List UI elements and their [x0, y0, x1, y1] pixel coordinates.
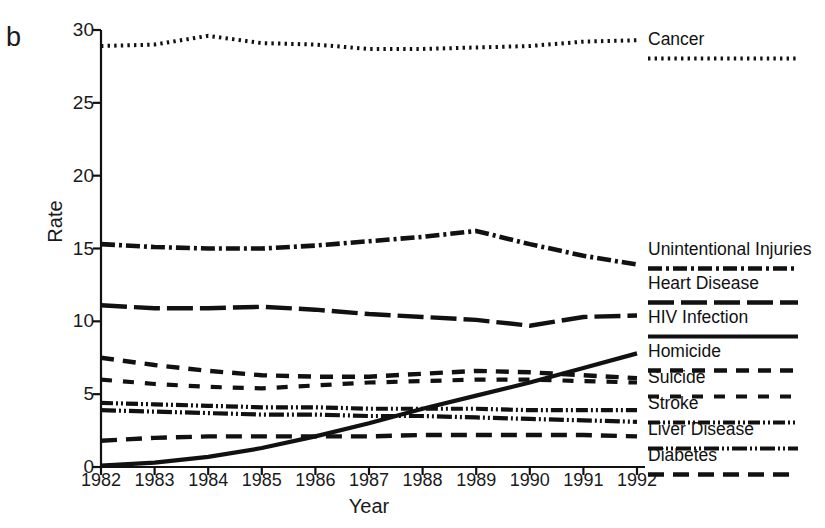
figure-panel-b: b Rate Year 051015202530 198219831984198… [0, 0, 825, 528]
series-line-cancer [101, 36, 637, 49]
legend-label: Stroke [648, 394, 825, 412]
legend-swatch-dotted [648, 55, 798, 62]
legend-label: Homicide [648, 342, 825, 360]
series-line-unintentional-injuries [101, 231, 637, 264]
legend-label: HIV Infection [648, 308, 825, 326]
legend-item-heart-disease[interactable]: Heart Disease [648, 274, 825, 310]
legend-item-cancer[interactable]: Cancer [648, 30, 825, 66]
legend-label: Heart Disease [648, 274, 825, 292]
legend-swatch-long-dash [648, 299, 798, 306]
legend-swatch-solid [648, 333, 798, 340]
legend-label: Cancer [648, 30, 825, 48]
legend-swatch-dash [648, 471, 798, 478]
legend-label: Unintentional Injuries [648, 240, 825, 258]
series-line-stroke [101, 403, 637, 410]
series-line-suicide [101, 380, 637, 389]
legend-item-hiv-infection[interactable]: HIV Infection [648, 308, 825, 344]
legend-item-diabetes[interactable]: Diabetes [648, 446, 825, 482]
legend: CancerUnintentional InjuriesHeart Diseas… [648, 0, 825, 528]
legend-swatch-dash-dot [648, 265, 798, 272]
legend-label: Diabetes [648, 446, 825, 464]
legend-label: Suicide [648, 368, 825, 386]
series-line-heart-disease [101, 305, 637, 325]
series-line-diabetes [101, 435, 637, 441]
legend-item-unintentional-injuries[interactable]: Unintentional Injuries [648, 240, 825, 276]
legend-label: Liver Disease [648, 420, 825, 438]
